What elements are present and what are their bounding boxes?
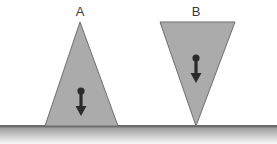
figure-root: A B bbox=[0, 0, 277, 144]
ground-gradient-band bbox=[0, 127, 277, 144]
shape-label-b: B bbox=[192, 4, 201, 19]
shape-label-a: A bbox=[76, 4, 85, 19]
ground-line bbox=[0, 125, 277, 127]
figure-canvas: A B bbox=[0, 0, 277, 144]
